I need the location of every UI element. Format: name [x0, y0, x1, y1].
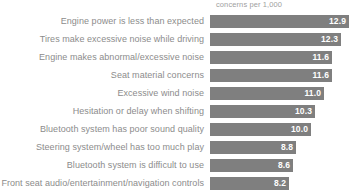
bar-row: Hesitation or delay when shifting 10.3 — [0, 102, 361, 120]
category-label: Front seat audio/entertainment/navigatio… — [0, 177, 210, 190]
bar-track: 11.6 — [210, 51, 361, 64]
bar[interactable]: 10.0 — [210, 123, 311, 136]
bar-row: Bluetooth system has poor sound quality … — [0, 120, 361, 138]
bar[interactable]: 11.0 — [210, 87, 324, 100]
category-label: Seat material concerns — [0, 69, 210, 82]
bar-rows-container: Engine power is less than expected 12.9 … — [0, 12, 361, 192]
category-label: Bluetooth system has poor sound quality — [0, 123, 210, 136]
horizontal-bar-chart: concerns per 1,000 Engine power is less … — [0, 0, 361, 194]
bar-value-label: 8.8 — [281, 141, 293, 154]
bar[interactable]: 11.6 — [210, 51, 332, 64]
bar-track: 12.9 — [210, 15, 361, 28]
axis-header-label: concerns per 1,000 — [216, 0, 282, 9]
bar-row: Steering system/wheel has too much play … — [0, 138, 361, 156]
bar[interactable]: 8.2 — [210, 177, 289, 190]
bar[interactable]: 11.6 — [210, 69, 332, 82]
category-label: Excessive wind noise — [0, 87, 210, 100]
bar-value-label: 10.0 — [291, 123, 308, 136]
bar-row: Engine power is less than expected 12.9 — [0, 12, 361, 30]
bar[interactable]: 12.9 — [210, 15, 349, 28]
bar-row: Engine makes abnormal/excessive noise 11… — [0, 48, 361, 66]
bar[interactable]: 12.3 — [210, 33, 341, 46]
bar-value-label: 12.3 — [321, 33, 338, 46]
bar-row: Bluetooth system is difficult to use 8.6 — [0, 156, 361, 174]
bar[interactable]: 10.3 — [210, 105, 315, 118]
bar-value-label: 11.6 — [313, 69, 329, 82]
bar-value-label: 11.0 — [305, 87, 321, 100]
bar[interactable]: 8.8 — [210, 141, 296, 154]
bar-track: 8.8 — [210, 141, 361, 154]
bar-track: 10.3 — [210, 105, 361, 118]
bar-track: 11.0 — [210, 87, 361, 100]
category-label: Hesitation or delay when shifting — [0, 105, 210, 118]
bar-row: Seat material concerns 11.6 — [0, 66, 361, 84]
bar-value-label: 12.9 — [329, 15, 346, 28]
bar-track: 8.6 — [210, 159, 361, 172]
bar-track: 11.6 — [210, 69, 361, 82]
bar-track: 8.2 — [210, 177, 361, 190]
bar-track: 10.0 — [210, 123, 361, 136]
bar-value-label: 8.2 — [274, 177, 286, 190]
bar-row: Excessive wind noise 11.0 — [0, 84, 361, 102]
bar-value-label: 8.6 — [278, 159, 290, 172]
bar-row: Tires make excessive noise while driving… — [0, 30, 361, 48]
bar-track: 12.3 — [210, 33, 361, 46]
bar-value-label: 10.3 — [295, 105, 312, 118]
bar-value-label: 11.6 — [313, 51, 329, 64]
bar[interactable]: 8.6 — [210, 159, 293, 172]
bar-row: Front seat audio/entertainment/navigatio… — [0, 174, 361, 192]
category-label: Engine power is less than expected — [0, 15, 210, 28]
category-label: Steering system/wheel has too much play — [0, 141, 210, 154]
category-label: Engine makes abnormal/excessive noise — [0, 51, 210, 64]
category-label: Tires make excessive noise while driving — [0, 33, 210, 46]
category-label: Bluetooth system is difficult to use — [0, 159, 210, 172]
